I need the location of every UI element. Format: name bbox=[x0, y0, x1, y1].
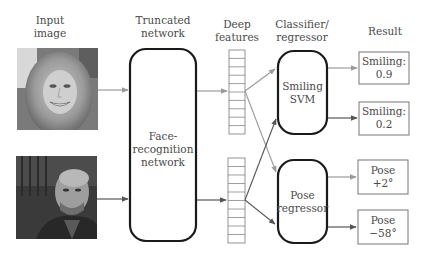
result-smiling-0-2: Smiling: 0.2 bbox=[359, 105, 409, 131]
result-pose-plus-2: Pose +2° bbox=[358, 164, 408, 190]
arrow-features2-to-pose bbox=[245, 200, 275, 224]
deep-feature-vector-1 bbox=[229, 50, 245, 134]
result-pose-minus-58: Pose −58° bbox=[358, 214, 408, 240]
face-recognition-network-label: Face- recognition network bbox=[130, 130, 196, 169]
smiling-svm-label: Smiling SVM bbox=[278, 80, 327, 106]
diagram-canvas: Input image Truncated network Deep featu… bbox=[0, 0, 431, 258]
deep-feature-vector-2 bbox=[228, 158, 245, 243]
pose-regressor-label: Pose regressor bbox=[275, 189, 330, 215]
result-smiling-0-9: Smiling: 0.9 bbox=[359, 55, 409, 81]
arrow-features1-to-svm bbox=[245, 69, 275, 91]
